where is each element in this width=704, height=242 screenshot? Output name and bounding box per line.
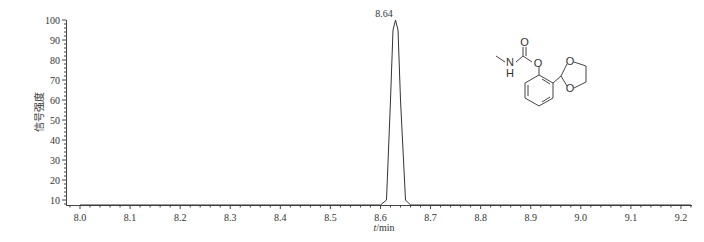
x-tick-label: 8.9 — [524, 212, 537, 223]
atom-carbonyl-o: O — [520, 36, 529, 48]
chromatogram-trace — [80, 20, 691, 205]
x-tick-label: 9.1 — [625, 212, 638, 223]
y-tick-labels: 102030405060708090100 — [45, 15, 60, 206]
x-tick-label: 8.8 — [474, 212, 487, 223]
x-tick-label: 9.2 — [675, 212, 688, 223]
x-tick-label: 8.3 — [224, 212, 237, 223]
y-tick-label: 40 — [50, 135, 60, 146]
x-axis — [66, 205, 692, 209]
y-axis — [62, 20, 67, 205]
atom-h: H — [506, 67, 514, 79]
x-tick-label: 8.0 — [74, 212, 87, 223]
atom-ring-o2: O — [566, 82, 575, 94]
chromatogram-chart: 102030405060708090100 8.08.18.28.38.48.5… — [0, 0, 704, 242]
y-tick-label: 20 — [50, 175, 60, 186]
y-axis-title: 信号强度 — [33, 92, 45, 132]
y-tick-label: 50 — [50, 115, 60, 126]
y-tick-label: 10 — [50, 195, 60, 206]
atom-ring-o1: O — [566, 55, 575, 67]
x-tick-label: 9.0 — [575, 212, 588, 223]
structure-atom-labels: O N H O O O — [506, 36, 575, 94]
x-tick-label: 8.7 — [424, 212, 437, 223]
peak-label: 8.64 — [375, 8, 393, 19]
x-tick-label: 8.4 — [274, 212, 287, 223]
x-tick-label: 8.5 — [324, 212, 337, 223]
x-tick-label: 8.2 — [174, 212, 187, 223]
x-tick-label: 8.1 — [124, 212, 137, 223]
y-tick-label: 80 — [50, 55, 60, 66]
y-tick-label: 60 — [50, 95, 60, 106]
y-tick-label: 70 — [50, 75, 60, 86]
y-tick-label: 100 — [45, 15, 60, 26]
y-tick-label: 90 — [50, 35, 60, 46]
atom-ester-o: O — [534, 57, 543, 69]
y-tick-label: 30 — [50, 155, 60, 166]
x-axis-title: t/min — [373, 222, 394, 233]
